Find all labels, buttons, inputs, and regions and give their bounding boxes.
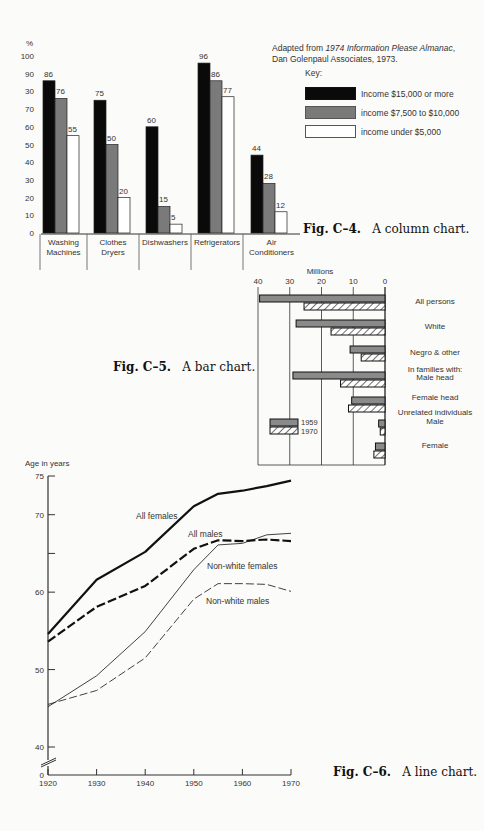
bar-1959 [379,420,385,427]
legend-label-1970: 1970 [301,427,318,436]
category-label: All persons [415,297,455,306]
category-label: Male [426,417,444,426]
bar-1959 [293,372,385,379]
x-tick-label: 20 [317,277,326,286]
data-label: 28 [264,172,273,181]
column-bar [146,127,158,233]
legend-title: Key: [305,68,484,78]
legend-swatch-gray [305,106,356,119]
series-label: All females [136,511,178,521]
x-tick-label: 30 [285,277,294,286]
legend-swatch-white [305,125,356,138]
y-tick-label: 75 [35,472,44,481]
figure-caption-c4: Fig. C–4. A column chart. [303,222,469,236]
category-label: Female head [412,393,459,402]
x-tick-label: 1920 [39,779,57,788]
series-line [48,481,291,634]
data-label: 60 [147,116,156,125]
category-label: Male head [416,373,453,382]
legend-item: income under $5,000 [305,122,484,141]
x-tick-label: 1930 [88,779,106,788]
source-note: Adapted from 1974 Information Please Alm… [272,43,484,65]
y-axis-label: Age in years [25,459,69,468]
y-tick-label: 70 [25,105,34,114]
column-chart-plot: %0102030405060703090100867655WashingMach… [0,0,300,270]
y-tick-label: 70 [35,511,44,520]
category-label: Clothes [99,238,126,247]
y-tick-label: 20 [25,194,34,203]
y-tick-label: 0 [30,229,35,238]
bar-1959 [375,443,385,450]
y-axis-label: % [26,39,33,48]
bar-1970 [361,354,385,361]
x-tick-label: 10 [349,277,358,286]
data-label: 86 [211,70,220,79]
y-tick-label: 100 [21,52,35,61]
category-label: Negro & other [410,348,460,357]
bar-1970 [331,328,385,335]
category-label: White [425,322,446,331]
line-chart-plot: Age in years7570605040019201930194019501… [0,450,310,795]
bar-1959 [350,346,385,353]
x-tick-label: 1960 [234,779,252,788]
figure-caption-c6: Fig. C–6. A line chart. [333,765,477,779]
legend-item: Income $15,000 or more [305,84,484,103]
legend-label: Income $15,000 or more [361,89,454,99]
series-line [48,539,291,641]
series-label: All males [188,529,222,539]
category-label: Refrigerators [194,238,240,247]
data-label: 12 [276,201,285,210]
source-title: 1974 Information Please Almanac [325,43,452,53]
series-label: Non-white females [207,561,277,571]
column-bar [43,81,55,233]
category-label: Conditioners [249,248,294,257]
data-label: 20 [119,187,128,196]
bar-1959 [352,397,385,404]
bar-1970 [341,380,385,387]
category-label: Air [267,238,277,247]
data-label: 96 [199,52,208,61]
bar-1959 [260,295,385,302]
column-chart: %0102030405060703090100867655WashingMach… [0,0,300,270]
column-bar [210,81,222,233]
category-label: Female [422,441,449,450]
column-bar [158,206,170,233]
x-tick-label: 1940 [136,779,154,788]
series-label: Non-white males [206,596,269,606]
x-tick-label: 1950 [185,779,203,788]
data-label: 75 [95,89,104,98]
line-chart: Age in years7570605040019201930194019501… [0,450,310,795]
y-tick-label: 30 [25,176,34,185]
data-label: 5 [171,213,176,222]
data-label: 55 [68,125,77,134]
category-label: Machines [46,248,80,257]
data-label: 15 [159,195,168,204]
bar-1970 [348,405,385,412]
legend-item: income $7,500 to $10,000 [305,103,484,122]
y-tick-label: 60 [35,588,44,597]
legend-label: income under $5,000 [361,127,441,137]
legend-swatch-1970 [270,427,298,434]
column-bar [106,145,118,234]
y-tick-label: 60 [25,123,34,132]
bar-1970 [380,428,385,435]
category-label: Dryers [101,248,125,257]
category-label: Washing [48,238,79,247]
bar-chart-plot: Millions403020100All personsWhiteNegro &… [230,262,484,472]
data-label: 77 [223,86,232,95]
column-bar [170,224,182,233]
data-label: 76 [56,87,65,96]
column-bar [67,136,79,233]
category-label: Unrelated individuals [398,408,472,417]
data-label: 50 [107,134,116,143]
legend: Key: Income $15,000 or more income $7,50… [305,68,484,141]
y-tick-label: 50 [25,141,34,150]
legend-label: income $7,500 to $10,000 [361,108,459,118]
column-bar [118,198,130,233]
y-tick-label: 90 [25,70,34,79]
bar-chart: Millions403020100All personsWhiteNegro &… [230,262,484,472]
column-bar [55,98,67,233]
x-tick-label: 1970 [282,779,300,788]
x-tick-label: 0 [383,277,388,286]
column-bar [263,183,275,233]
